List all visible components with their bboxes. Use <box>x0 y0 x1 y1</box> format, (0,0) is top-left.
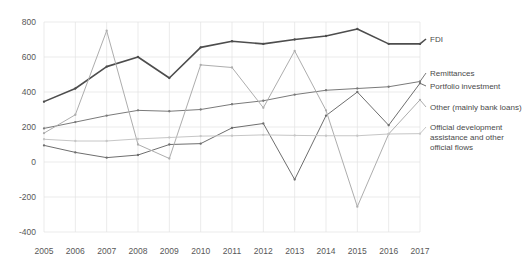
data-point-marker <box>106 30 108 32</box>
data-point-marker <box>356 87 358 89</box>
data-point-marker <box>106 156 108 158</box>
data-point-marker <box>43 132 45 134</box>
data-point-marker <box>43 100 45 102</box>
y-axis-tick-label: 400 <box>22 87 36 97</box>
y-axis-tick-label: 200 <box>22 122 36 132</box>
data-point-marker <box>294 93 296 95</box>
data-point-marker <box>325 89 327 91</box>
x-axis-tick-label: 2015 <box>348 246 367 256</box>
legend-label: Portfolio investment <box>430 82 501 91</box>
data-point-marker <box>200 142 202 144</box>
data-point-marker <box>231 135 233 137</box>
data-point-marker <box>294 50 296 52</box>
chart-container: -400-2000200400600800 200520062007200820… <box>0 0 530 268</box>
data-point-marker <box>43 127 45 129</box>
legend-labels-group: FDIRemittancesPortfolio investmentOther … <box>430 35 522 152</box>
x-axis-tick-label: 2007 <box>97 246 116 256</box>
data-point-marker <box>294 38 296 40</box>
legend-label: official flows <box>430 143 473 152</box>
data-point-marker <box>294 178 296 180</box>
y-axis-tick-label: 800 <box>22 17 36 27</box>
data-point-marker <box>325 109 327 111</box>
line-chart: -400-2000200400600800 200520062007200820… <box>0 0 530 268</box>
data-point-marker <box>262 100 264 102</box>
data-point-marker <box>168 110 170 112</box>
y-axis-tick-labels: -400-2000200400600800 <box>19 17 36 237</box>
data-point-marker <box>231 66 233 68</box>
data-point-marker <box>43 144 45 146</box>
x-axis-tick-label: 2016 <box>379 246 398 256</box>
data-point-marker <box>325 135 327 137</box>
x-axis-tick-label: 2017 <box>411 246 430 256</box>
data-point-marker <box>388 43 390 45</box>
data-point-marker <box>356 91 358 93</box>
y-axis-tick-label: -400 <box>19 227 36 237</box>
data-point-marker <box>356 205 358 207</box>
data-point-marker <box>262 107 264 109</box>
x-axis-tick-labels: 2005200620072008200920102011201220132014… <box>35 246 430 256</box>
data-point-marker <box>262 43 264 45</box>
data-point-marker <box>74 121 76 123</box>
data-point-marker <box>356 135 358 137</box>
data-point-marker <box>137 56 139 58</box>
data-point-marker <box>325 114 327 116</box>
data-point-marker <box>388 86 390 88</box>
y-axis-tick-label: 600 <box>22 52 36 62</box>
data-point-marker <box>325 35 327 37</box>
data-point-marker <box>168 157 170 159</box>
data-point-marker <box>388 124 390 126</box>
data-point-marker <box>106 140 108 142</box>
legend-leader-line <box>420 127 426 134</box>
x-axis-tick-label: 2005 <box>35 246 54 256</box>
data-point-marker <box>106 65 108 67</box>
y-axis-tick-label: -200 <box>19 192 36 202</box>
x-axis-tick-label: 2009 <box>160 246 179 256</box>
x-axis-tick-label: 2011 <box>223 246 242 256</box>
data-point-marker <box>137 109 139 111</box>
data-point-marker <box>137 138 139 140</box>
legend-label: Remittances <box>430 69 474 78</box>
x-axis-tick-label: 2006 <box>66 246 85 256</box>
x-axis-tick-label: 2010 <box>191 246 210 256</box>
legend-leader-line <box>420 83 426 86</box>
legend-leader-line <box>420 39 426 44</box>
legend-leader-line <box>420 73 426 82</box>
data-point-marker <box>43 138 45 140</box>
data-point-marker <box>262 122 264 124</box>
data-point-marker <box>231 103 233 105</box>
data-point-marker <box>106 114 108 116</box>
data-point-marker <box>388 133 390 135</box>
data-point-marker <box>137 143 139 145</box>
data-point-marker <box>74 87 76 89</box>
x-axis-tick-label: 2008 <box>129 246 148 256</box>
data-point-marker <box>200 64 202 66</box>
data-point-marker <box>231 40 233 42</box>
data-point-marker <box>74 114 76 116</box>
legend-leader-line <box>420 100 426 107</box>
data-point-marker <box>168 77 170 79</box>
data-point-marker <box>200 135 202 137</box>
data-point-marker <box>356 28 358 30</box>
data-point-marker <box>200 46 202 48</box>
data-point-marker <box>294 134 296 136</box>
legend-leader-lines <box>420 39 426 134</box>
data-point-marker <box>137 154 139 156</box>
x-axis-tick-label: 2012 <box>254 246 273 256</box>
legend-label: FDI <box>430 35 443 44</box>
data-point-marker <box>200 108 202 110</box>
legend-label: assistance and other <box>430 133 504 142</box>
y-axis-tick-label: 0 <box>31 157 36 167</box>
data-point-marker <box>74 151 76 153</box>
x-axis-tick-label: 2014 <box>317 246 336 256</box>
x-axis-tick-label: 2013 <box>285 246 304 256</box>
data-point-marker <box>168 143 170 145</box>
data-point-marker <box>74 140 76 142</box>
legend-label: Other (mainly bank loans) <box>430 103 522 112</box>
data-point-marker <box>262 134 264 136</box>
data-point-marker <box>231 127 233 129</box>
legend-label: Official development <box>430 123 503 132</box>
data-point-marker <box>168 136 170 138</box>
